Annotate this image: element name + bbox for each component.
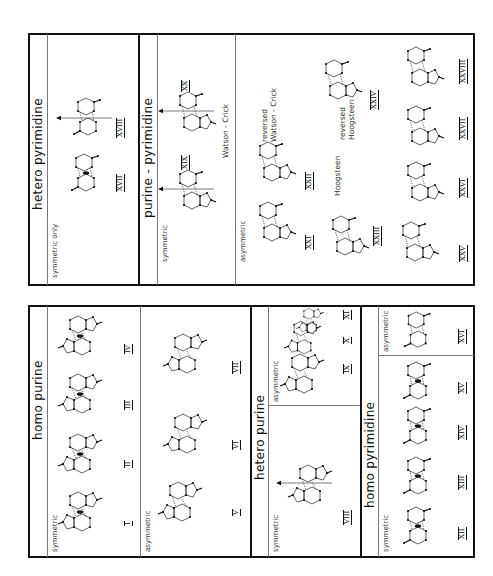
- subsection-label-symmetric: symmetric: [382, 515, 390, 552]
- section-title-hetero-purine: hetero purine: [253, 395, 267, 480]
- subsection-label-asymmetric: asymmetric: [239, 221, 247, 262]
- structure-XXI: [252, 200, 298, 248]
- label-XXIV: XXIV: [370, 90, 379, 110]
- label-VII: VII: [232, 361, 241, 374]
- structure-XXVI: [400, 160, 446, 208]
- divider: [378, 355, 474, 356]
- note-watson-crick: Watson - Crick: [221, 104, 230, 158]
- label-XX: XX: [181, 80, 190, 92]
- label-XI: XI: [343, 310, 352, 320]
- divider: [268, 306, 269, 557]
- subsection-label-asymmetric: asymmetric: [144, 511, 152, 552]
- label-XXIII: XXIII: [373, 226, 382, 246]
- divider: [140, 306, 141, 557]
- structure-XI: [292, 306, 332, 336]
- structure-XIX: [172, 168, 218, 216]
- divider: [268, 405, 360, 406]
- label-VI: VI: [232, 440, 241, 450]
- structure-XVIII: [70, 96, 114, 142]
- section-title-purine-pyrimidine: purine - pyrimidine: [141, 98, 155, 218]
- label-XVI: XVI: [458, 329, 467, 344]
- subsection-label-asymmetric: asymmetric: [272, 361, 280, 402]
- subsection-label-asymmetric: asymmetric: [382, 311, 390, 352]
- section-title-homo-pyrimidine: homo pyrimidine: [363, 402, 377, 508]
- structure-XXVII: [400, 104, 446, 152]
- structure-VIII: [290, 455, 336, 515]
- label-IV: IV: [124, 344, 133, 354]
- structure-XIV: [400, 405, 440, 449]
- divider: [138, 34, 140, 285]
- label-XXII: XXII: [305, 173, 314, 191]
- structure-XXIV: [318, 58, 364, 106]
- label-X: X: [343, 337, 352, 344]
- structure-XIII: [400, 455, 440, 499]
- structure-XX: [172, 90, 218, 138]
- structure-VI: [165, 410, 211, 458]
- structure-III: [60, 370, 106, 418]
- structure-XXII: [252, 140, 298, 188]
- structure-IV: [60, 312, 106, 360]
- subsection-label-symmetric: symmetric: [161, 225, 169, 262]
- structure-XV: [400, 360, 440, 404]
- divider: [157, 34, 158, 285]
- structure-II: [60, 430, 106, 478]
- divider: [378, 306, 379, 557]
- divider: [47, 306, 48, 557]
- label-III: III: [124, 400, 133, 410]
- divider: [47, 34, 48, 285]
- structure-XXV: [395, 220, 441, 268]
- label-XVII: XVII: [116, 174, 125, 192]
- structure-XVI: [400, 310, 440, 352]
- label-XXI: XXI: [305, 235, 314, 250]
- label-I: I: [124, 521, 133, 526]
- label-XVIII: XVIII: [116, 118, 125, 138]
- label-XIII: XIII: [458, 475, 467, 490]
- label-XXVI: XXVI: [459, 178, 468, 198]
- divider: [235, 34, 236, 285]
- label-IX: IX: [343, 364, 352, 374]
- label-VIII: VIII: [343, 510, 352, 525]
- divider: [360, 306, 362, 557]
- structure-XVII: [68, 152, 108, 196]
- label-XIX: XIX: [181, 155, 190, 170]
- label-XXVIII: XXVIII: [459, 59, 468, 84]
- section-title-homo-purine: homo purine: [31, 360, 45, 440]
- note-reversed-watson-crick: reversed Watson - Crick: [260, 88, 278, 142]
- structure-XXVIII: [400, 45, 446, 93]
- note-hoogsteen: Hoogsteen: [333, 156, 342, 196]
- structure-VII: [165, 330, 211, 378]
- structure-V: [160, 478, 206, 526]
- label-XXV: XXV: [459, 245, 468, 262]
- structure-XII: [400, 505, 440, 549]
- subsection-label-symmetric: symmetric: [272, 515, 280, 552]
- structure-I: [60, 488, 106, 536]
- label-XXVII: XXVII: [459, 117, 468, 140]
- label-V: V: [232, 509, 241, 516]
- label-XIV: XIV: [458, 425, 467, 440]
- subsection-label-symmetric: symmetric: [51, 515, 59, 552]
- label-XV: XV: [458, 382, 467, 394]
- section-title-hetero-pyrimidine: hetero pyrimidine: [31, 98, 45, 210]
- structure-XXIII: [325, 214, 371, 262]
- divider: [250, 306, 252, 557]
- label-XII: XII: [458, 527, 467, 540]
- subsection-label-symmetric-only: symmetric only: [51, 224, 59, 278]
- label-II: II: [124, 460, 133, 468]
